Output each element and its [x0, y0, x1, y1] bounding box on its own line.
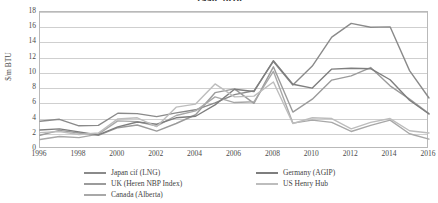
- legend-item[interactable]: Germany (AGIP): [256, 167, 335, 178]
- chart-legend: Japan cif (LNG)UK (Heren NBP Index)Canad…: [84, 167, 384, 201]
- x-tick-label: 2004: [175, 150, 215, 158]
- legend-swatch-icon: [84, 172, 106, 174]
- y-tick-label: 12: [12, 53, 36, 61]
- x-tick-label: 2014: [369, 150, 409, 158]
- series-line-canada-alberta: [40, 71, 429, 139]
- x-axis-ticks: 1996199820002002200420062008201020122014…: [0, 150, 438, 164]
- plot-area: [39, 11, 428, 148]
- y-tick-label: 16: [12, 22, 36, 30]
- x-tick-label: 2016: [408, 150, 438, 158]
- series-line-japan-cif-lng: [40, 23, 429, 125]
- legend-label: US Henry Hub: [283, 178, 328, 189]
- x-tick-label: 2002: [136, 150, 176, 158]
- legend-swatch-icon: [256, 183, 278, 185]
- gas-price-line-chart: 1996-2016 $/m BTU 024681012141618 199619…: [0, 0, 438, 203]
- series-line-germany-agip: [40, 61, 429, 135]
- y-tick-label: 8: [12, 83, 36, 91]
- y-tick-label: 10: [12, 68, 36, 76]
- x-tick-label: 2008: [252, 150, 292, 158]
- y-tick-label: 14: [12, 37, 36, 45]
- y-tick-label: 4: [12, 114, 36, 122]
- y-tick-label: 2: [12, 129, 36, 137]
- x-tick-label: 2006: [214, 150, 254, 158]
- y-tick-label: 18: [12, 7, 36, 15]
- y-axis-ticks: 024681012141618: [8, 0, 36, 203]
- chart-title: 1996-2016: [0, 0, 438, 1]
- x-tick-label: 2012: [330, 150, 370, 158]
- legend-item[interactable]: Canada (Alberta): [84, 189, 182, 200]
- legend-label: Canada (Alberta): [111, 189, 163, 200]
- legend-label: Japan cif (LNG): [111, 167, 160, 178]
- x-tick-label: 2010: [291, 150, 331, 158]
- legend-label: UK (Heren NBP Index): [111, 178, 182, 189]
- x-tick-label: 1996: [19, 150, 59, 158]
- legend-label: Germany (AGIP): [283, 167, 335, 178]
- legend-swatch-icon: [84, 194, 106, 196]
- legend-column-left: Japan cif (LNG)UK (Heren NBP Index)Canad…: [84, 167, 182, 200]
- x-tick-label: 1998: [58, 150, 98, 158]
- legend-swatch-icon: [256, 172, 278, 174]
- series-lines: [40, 12, 429, 149]
- legend-item[interactable]: Japan cif (LNG): [84, 167, 182, 178]
- legend-swatch-icon: [84, 183, 106, 185]
- legend-item[interactable]: UK (Heren NBP Index): [84, 178, 182, 189]
- legend-column-right: Germany (AGIP)US Henry Hub: [256, 167, 335, 189]
- x-tick-label: 2000: [97, 150, 137, 158]
- y-tick-label: 6: [12, 98, 36, 106]
- legend-item[interactable]: US Henry Hub: [256, 178, 335, 189]
